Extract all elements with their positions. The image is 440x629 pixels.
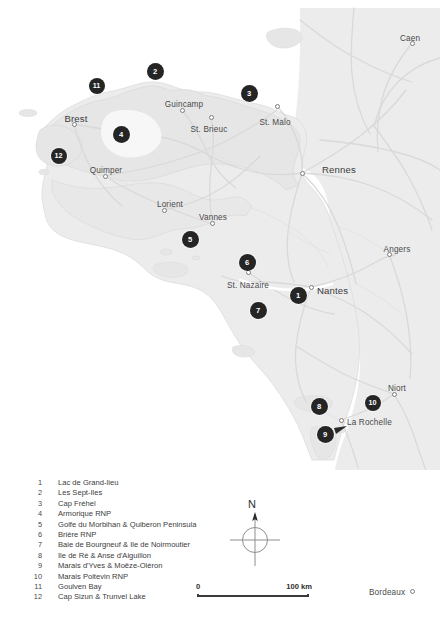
map-legend: 1Lac de Grand-lieu2Les Sept-Iles3Cap Fré… xyxy=(22,478,222,603)
legend-row: 3Cap Fréhel xyxy=(22,499,222,509)
legend-number: 1 xyxy=(22,478,42,487)
legend-label: Goulven Bay xyxy=(58,582,101,591)
city-marker-dot xyxy=(410,41,415,46)
city-label: Bordeaux xyxy=(369,588,405,597)
legend-number: 4 xyxy=(22,509,42,518)
legend-number: 7 xyxy=(22,540,42,549)
legend-number: 9 xyxy=(22,561,42,570)
city-marker-dot xyxy=(410,589,415,594)
city-label: St. Brieuc xyxy=(191,125,228,134)
legend-label: Lac de Grand-lieu xyxy=(58,478,118,487)
legend-row: 6Brière RNP xyxy=(22,530,222,540)
legend-row: 1Lac de Grand-lieu xyxy=(22,478,222,488)
site-marker-5[interactable]: 5 xyxy=(182,231,199,248)
site-marker-11[interactable]: 11 xyxy=(89,78,105,94)
legend-row: 5Golfe du Morbihan & Quiberon Peninsula xyxy=(22,520,222,530)
scale-bar-line xyxy=(197,594,309,597)
legend-row: 11Goulven Bay xyxy=(22,582,222,592)
city-label: St. Nazaire xyxy=(227,281,269,290)
city-marker-dot xyxy=(392,392,397,397)
legend-row: 10Marais Poitevin RNP xyxy=(22,572,222,582)
legend-label: Cap Sizun & Trunvel Lake xyxy=(58,592,146,601)
legend-number: 6 xyxy=(22,530,42,539)
legend-row: 7Baie de Bourgneuf & Ile de Noirmoutier xyxy=(22,540,222,550)
compass-rose: N xyxy=(222,500,288,576)
city-label: La Rochelle xyxy=(347,418,392,427)
legend-row: 9Marais d'Yves & Moëze-Oléron xyxy=(22,561,222,571)
site-marker-7[interactable]: 7 xyxy=(250,302,267,319)
city-marker-dot xyxy=(72,122,77,127)
legend-row: 8Ile de Ré & Anse d'Aiguillon xyxy=(22,551,222,561)
reference-map-figure: CaenBrestGuincampSt. BrieucSt. MaloRenne… xyxy=(0,0,440,629)
city-marker-dot xyxy=(103,174,108,179)
city-label: Nantes xyxy=(317,285,348,296)
city-marker-dot xyxy=(300,171,305,176)
city-label: Lorient xyxy=(157,200,183,209)
city-marker-dot xyxy=(387,252,392,257)
site-marker-8[interactable]: 8 xyxy=(311,398,328,415)
site-marker-6[interactable]: 6 xyxy=(239,254,256,271)
city-marker-dot xyxy=(162,208,167,213)
site-marker-3[interactable]: 3 xyxy=(241,85,258,102)
legend-row: 4Armorique RNP xyxy=(22,509,222,519)
city-marker-dot xyxy=(210,221,215,226)
legend-number: 8 xyxy=(22,551,42,560)
city-label: St. Malo xyxy=(259,118,290,127)
city-marker-dot xyxy=(339,418,344,423)
scale-bar: 0 100 km xyxy=(196,583,312,605)
site-marker-4[interactable]: 4 xyxy=(113,126,130,143)
scale-max-label: 100 km xyxy=(286,582,312,591)
legend-label: Marais Poitevin RNP xyxy=(58,572,128,581)
site-marker-12[interactable]: 12 xyxy=(51,148,67,164)
site-marker-1[interactable]: 1 xyxy=(290,287,307,304)
compass-north-label: N xyxy=(248,498,256,510)
legend-row: 12Cap Sizun & Trunvel Lake xyxy=(22,592,222,602)
legend-label: Les Sept-Iles xyxy=(58,488,102,497)
legend-number: 10 xyxy=(22,572,42,581)
city-marker-dot xyxy=(309,285,314,290)
site-marker-10[interactable]: 10 xyxy=(365,395,381,411)
city-label: Rennes xyxy=(322,164,356,175)
city-label: Niort xyxy=(388,384,406,393)
city-marker-dot xyxy=(275,104,280,109)
site-marker-2[interactable]: 2 xyxy=(147,63,164,80)
legend-number: 5 xyxy=(22,520,42,529)
city-marker-dot xyxy=(180,108,185,113)
legend-number: 11 xyxy=(22,582,42,591)
legend-label: Brière RNP xyxy=(58,530,96,539)
legend-label: Baie de Bourgneuf & Ile de Noirmoutier xyxy=(58,540,190,549)
city-marker-dot xyxy=(209,115,214,120)
scale-min-label: 0 xyxy=(196,582,200,591)
site-marker-9[interactable]: 9 xyxy=(317,426,334,443)
legend-label: Ile de Ré & Anse d'Aiguillon xyxy=(58,551,151,560)
legend-number: 12 xyxy=(22,592,42,601)
legend-row: 2Les Sept-Iles xyxy=(22,488,222,498)
legend-label: Armorique RNP xyxy=(58,509,111,518)
legend-label: Golfe du Morbihan & Quiberon Peninsula xyxy=(58,520,196,529)
legend-number: 2 xyxy=(22,488,42,497)
legend-label: Marais d'Yves & Moëze-Oléron xyxy=(58,561,162,570)
legend-number: 3 xyxy=(22,499,42,508)
legend-label: Cap Fréhel xyxy=(58,499,96,508)
